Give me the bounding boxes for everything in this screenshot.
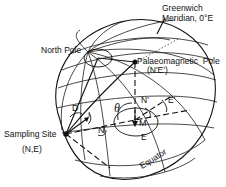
longitude-lines bbox=[61, 20, 214, 176]
label-M: M bbox=[139, 118, 147, 128]
site-to-right-line bbox=[66, 110, 190, 134]
label-N: N bbox=[98, 125, 105, 135]
sampling-site-label-1: Sampling Site bbox=[4, 129, 57, 139]
sampling-site-marker bbox=[63, 131, 69, 137]
label-N-prime: N' bbox=[141, 95, 149, 105]
label-E: E bbox=[141, 132, 147, 142]
label-I: I bbox=[88, 110, 90, 119]
north-pole-label: North Pole bbox=[41, 45, 81, 55]
M-arrowhead bbox=[132, 121, 138, 127]
greenwich-label-2: Meridian, 0°E bbox=[162, 13, 213, 23]
label-D: D bbox=[72, 103, 79, 113]
globe-diagram: Greenwich Meridian, 0°E North Pole Palae… bbox=[0, 0, 226, 187]
greenwich-label-1: Greenwich bbox=[162, 3, 203, 13]
palaeomagnetic-pole-label-2: (N'E') bbox=[147, 65, 168, 75]
pole-meridian bbox=[98, 58, 135, 62]
label-theta: θ bbox=[114, 101, 120, 115]
sampling-site-label-2: (N,E) bbox=[22, 144, 42, 154]
D-arc bbox=[70, 113, 82, 117]
E-prime-arc bbox=[162, 100, 167, 112]
label-E-prime: E' bbox=[168, 95, 176, 105]
